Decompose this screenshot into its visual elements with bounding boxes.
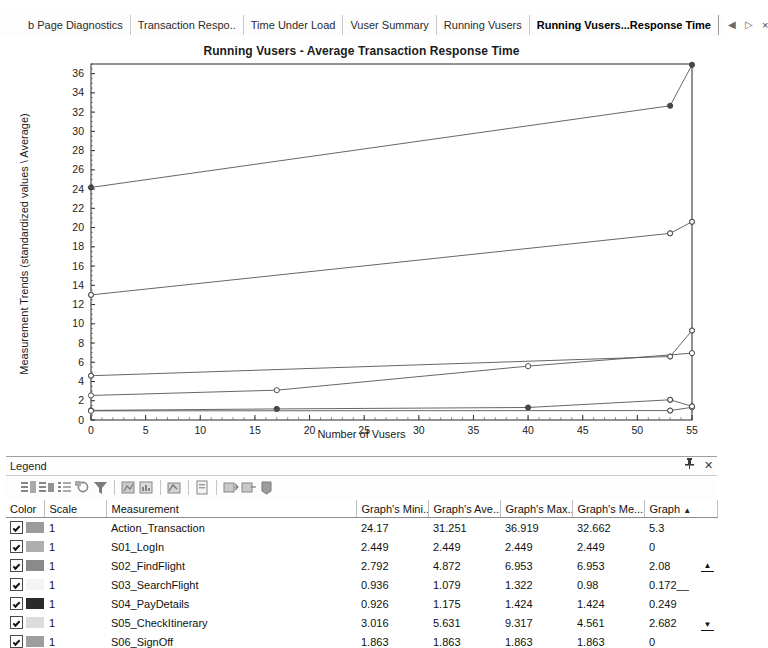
pin-icon[interactable] [685, 458, 694, 472]
export-icon[interactable] [240, 479, 257, 496]
legend-color-cell[interactable] [6, 575, 44, 594]
legend-table-row[interactable]: 1S06_SignOff1.8631.8631.8631.8630 [6, 632, 717, 648]
legend-color-cell[interactable] [6, 632, 44, 648]
cell-scale: 1 [44, 632, 106, 648]
legend-table-row[interactable]: 1S01_LogIn2.4492.4492.4492.4490 [6, 537, 717, 556]
hide-all-icon[interactable] [38, 479, 55, 496]
toolbar-separator [114, 480, 115, 495]
configure-icon[interactable] [74, 479, 91, 496]
svg-text:14: 14 [72, 279, 84, 291]
cell-graphs-last: 0 [644, 537, 717, 556]
cell-graphs-minimum: 1.863 [356, 632, 428, 648]
svg-text:28: 28 [72, 144, 84, 156]
legend-color-swatch [26, 522, 44, 533]
drill-down-icon[interactable] [222, 479, 239, 496]
filter-icon[interactable] [92, 479, 109, 496]
delete-icon[interactable] [258, 479, 275, 496]
svg-text:32: 32 [72, 106, 84, 118]
legend-color-cell[interactable] [6, 518, 44, 538]
tab-3[interactable]: Vuser Summary [343, 15, 436, 35]
legend-visibility-checkbox[interactable] [10, 559, 23, 572]
tab-next-icon[interactable]: ▷ [745, 20, 753, 30]
merge-icon[interactable] [120, 479, 137, 496]
legend-visibility-checkbox[interactable] [10, 635, 23, 648]
cell-graphs-average: 1.175 [428, 594, 500, 613]
legend-table-row[interactable]: 1S05_CheckItinerary3.0165.6319.3174.5612… [6, 613, 717, 632]
legend-color-cell[interactable] [6, 556, 44, 575]
properties-icon[interactable] [194, 479, 211, 496]
tab-1[interactable]: Transaction Respo.. [131, 15, 244, 35]
legend-visibility-checkbox[interactable] [10, 597, 23, 610]
cell-scale: 1 [44, 537, 106, 556]
cell-graphs-maximum: 1.424 [500, 594, 572, 613]
legend-color-cell[interactable] [6, 594, 44, 613]
chart-plot[interactable]: 0246810121416182022242628303234360510152… [0, 38, 723, 452]
legend-column-header-4[interactable]: Graph's Ave... [428, 500, 500, 518]
cell-graphs-minimum: 0.926 [356, 594, 428, 613]
legend-toolbar [6, 476, 717, 500]
cell-graphs-last: 5.3 [644, 518, 717, 538]
tab-2[interactable]: Time Under Load [244, 15, 344, 35]
legend-scroll-up-button[interactable]: ▲ [701, 561, 714, 572]
svg-text:10: 10 [72, 317, 84, 329]
legend-visibility-checkbox[interactable] [10, 521, 23, 534]
tab-close-icon[interactable]: × [762, 20, 768, 30]
svg-text:30: 30 [72, 125, 84, 137]
cell-measurement: S01_LogIn [106, 537, 356, 556]
chart-area: Running Vusers - Average Transaction Res… [0, 38, 723, 452]
svg-text:35: 35 [468, 424, 480, 436]
cell-graphs-median: 1.424 [572, 594, 644, 613]
legend-column-header-1[interactable]: Scale [44, 500, 106, 518]
legend-column-header-0[interactable]: Color [6, 500, 44, 518]
legend-color-swatch [26, 598, 44, 609]
graph-tab-strip: b Page DiagnosticsTransaction Respo..Tim… [0, 14, 723, 36]
tab-prev-icon[interactable]: ◀ [728, 20, 736, 30]
svg-text:16: 16 [72, 260, 84, 272]
svg-text:0: 0 [78, 414, 84, 426]
svg-text:45: 45 [577, 424, 589, 436]
show-all-icon[interactable] [20, 479, 37, 496]
cell-measurement: S03_SearchFlight [106, 575, 356, 594]
cell-graphs-average: 1.863 [428, 632, 500, 648]
svg-text:50: 50 [632, 424, 644, 436]
legend-color-cell[interactable] [6, 537, 44, 556]
cell-graphs-maximum: 1.863 [500, 632, 572, 648]
svg-text:55: 55 [686, 424, 698, 436]
list-icon[interactable] [56, 479, 73, 496]
legend-column-header-5[interactable]: Graph's Max... [500, 500, 572, 518]
legend-color-cell[interactable] [6, 613, 44, 632]
cell-graphs-maximum: 1.322 [500, 575, 572, 594]
legend-table-row[interactable]: 1Action_Transaction24.1731.25136.91932.6… [6, 518, 717, 538]
legend-column-header-2[interactable]: Measurement [106, 500, 356, 518]
legend-scroll-down-button[interactable]: ▼ [701, 620, 714, 631]
legend-table-row[interactable]: 1S04_PayDetails0.9261.1751.4241.4240.249 [6, 594, 717, 613]
auto-correlate-icon[interactable] [166, 479, 183, 496]
legend-visibility-checkbox[interactable] [10, 540, 23, 553]
svg-text:36: 36 [72, 67, 84, 79]
legend-header: Legend ✕ [6, 457, 717, 476]
cell-graphs-average: 31.251 [428, 518, 500, 538]
tab-4[interactable]: Running Vusers [437, 15, 530, 35]
legend-column-header-3[interactable]: Graph's Mini... [356, 500, 428, 518]
svg-text:20: 20 [304, 424, 316, 436]
close-icon[interactable]: ✕ [704, 458, 713, 472]
svg-text:20: 20 [72, 221, 84, 233]
cell-scale: 1 [44, 594, 106, 613]
tab-5[interactable]: Running Vusers...Response Time [530, 15, 719, 35]
cell-graphs-minimum: 0.936 [356, 575, 428, 594]
legend-column-header-6[interactable]: Graph's Me... [572, 500, 644, 518]
svg-text:0: 0 [88, 424, 94, 436]
toolbar-separator [216, 480, 217, 495]
cell-graphs-maximum: 36.919 [500, 518, 572, 538]
legend-table-row[interactable]: 1S03_SearchFlight0.9361.0791.3220.980.17… [6, 575, 717, 594]
legend-color-swatch [26, 560, 44, 571]
legend-visibility-checkbox[interactable] [10, 616, 23, 629]
break-down-icon[interactable] [138, 479, 155, 496]
cell-measurement: S06_SignOff [106, 632, 356, 648]
legend-table-row[interactable]: 1S02_FindFlight2.7924.8726.9536.9532.08 [6, 556, 717, 575]
legend-column-header-7[interactable]: Graph ▲ [644, 500, 717, 518]
legend-visibility-checkbox[interactable] [10, 578, 23, 591]
cell-graphs-median: 1.863 [572, 632, 644, 648]
svg-text:18: 18 [72, 240, 84, 252]
tab-0[interactable]: b Page Diagnostics [0, 15, 131, 35]
